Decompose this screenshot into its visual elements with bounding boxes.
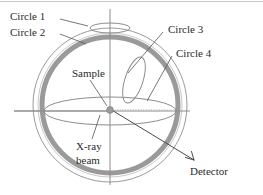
detector-label: Detector [190, 165, 228, 177]
circle-4-label: Circle 4 [176, 47, 212, 59]
circle-4-leader-line [147, 56, 172, 101]
circle-1-leader-line [60, 19, 88, 26]
xray-beam-label-line2: beam [76, 154, 100, 166]
sample-label: Sample [72, 67, 105, 79]
sample-point [107, 107, 114, 114]
sample-leader-line [90, 80, 107, 106]
diffractometer-diagram: Circle 1 Circle 2 Circle 3 Circle 4 Samp… [0, 0, 263, 195]
xray-beam-label-line1: X-ray [76, 140, 102, 152]
diffractometer-figure: Circle 1 Circle 2 Circle 3 Circle 4 Samp… [0, 0, 263, 195]
circle-1-label: Circle 1 [10, 10, 45, 22]
xray-beam-leader-line [92, 115, 100, 139]
circle-3-label: Circle 3 [168, 23, 204, 35]
circle-2-label: Circle 2 [10, 26, 45, 38]
